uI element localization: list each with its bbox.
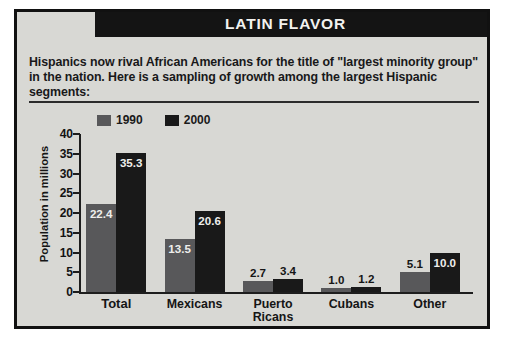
- x-axis-category-labels: TotalMexicansPuertoRicansCubansOther: [81, 298, 473, 328]
- bar-1990-mexicans: 13.5: [165, 239, 195, 292]
- y-tick-label: 15: [60, 227, 73, 239]
- y-tick-label: 40: [60, 128, 73, 140]
- y-tick-label: 0: [66, 286, 73, 298]
- y-tick-label: 5: [66, 266, 73, 278]
- title-band: LATIN FLAVOR: [95, 12, 490, 37]
- bar-value-label: 22.4: [86, 208, 116, 220]
- bar-value-label: 10.0: [430, 257, 460, 269]
- y-tick-mark: [73, 173, 80, 175]
- divider: [29, 101, 479, 103]
- bar-2000-other: 10.0: [430, 253, 460, 293]
- bar-value-label: 3.4: [273, 265, 303, 277]
- bar-value-label: 35.3: [116, 157, 146, 169]
- y-tick-label: 25: [60, 187, 73, 199]
- legend-label-2000: 2000: [184, 113, 211, 127]
- bar-value-label: 2.7: [243, 267, 273, 279]
- bar-value-label: 13.5: [165, 243, 195, 255]
- bar-2000-mexicans: 20.6: [195, 211, 225, 292]
- legend-swatch-2000: [165, 115, 179, 126]
- x-axis-line: [79, 292, 473, 294]
- y-tick-mark: [73, 232, 80, 234]
- bar-1990-total: 22.4: [86, 204, 116, 292]
- bar-2000-puerto-ricans: 3.4: [273, 279, 303, 292]
- bar-value-label: 5.1: [400, 258, 430, 270]
- y-tick-mark: [73, 153, 80, 155]
- x-label-line: Other: [376, 298, 484, 311]
- intro-paragraph: Hispanics now rival African Americans fo…: [29, 55, 481, 100]
- y-tick-label: 10: [60, 247, 73, 259]
- y-tick-label: 35: [60, 148, 73, 160]
- legend-item-2000: 2000: [165, 113, 211, 127]
- bar-group: 13.520.6: [165, 134, 225, 292]
- legend-label-1990: 1990: [116, 113, 143, 127]
- y-tick-mark: [73, 212, 80, 214]
- infographic-panel: LATIN FLAVOR Hispanics now rival African…: [14, 9, 490, 329]
- y-tick-label: 20: [60, 207, 73, 219]
- y-tick-mark: [73, 252, 80, 254]
- y-tick-mark: [73, 291, 80, 293]
- bar-group: 22.435.3: [86, 134, 146, 292]
- bar-1990-cubans: 1.0: [321, 288, 351, 292]
- page-title: LATIN FLAVOR: [95, 15, 476, 33]
- legend-swatch-1990: [97, 115, 111, 126]
- bar-group: 1.01.2: [321, 134, 381, 292]
- y-axis-tick-labels: 0510152025303540: [43, 134, 73, 292]
- y-tick-mark: [73, 271, 80, 273]
- plot-area: 22.435.313.520.62.73.41.01.25.110.0: [81, 134, 473, 292]
- bar-2000-total: 35.3: [116, 153, 146, 292]
- bar-2000-cubans: 1.2: [351, 287, 381, 292]
- legend-item-1990: 1990: [97, 113, 143, 127]
- bar-1990-puerto-ricans: 2.7: [243, 281, 273, 292]
- y-tick-label: 30: [60, 168, 73, 180]
- y-tick-mark: [73, 192, 80, 194]
- bar-chart: Population in millions 0510152025303540 …: [17, 126, 487, 326]
- y-tick-mark: [73, 133, 80, 135]
- bar-value-label: 20.6: [195, 215, 225, 227]
- bar-group: 2.73.4: [243, 134, 303, 292]
- bar-value-label: 1.2: [351, 273, 381, 285]
- x-label-line: Ricans: [219, 311, 327, 324]
- bar-group: 5.110.0: [400, 134, 460, 292]
- x-label-other: Other: [376, 298, 484, 311]
- bar-value-label: 1.0: [321, 274, 351, 286]
- bar-1990-other: 5.1: [400, 272, 430, 292]
